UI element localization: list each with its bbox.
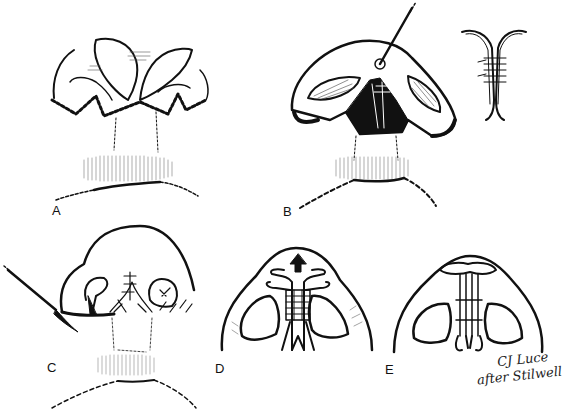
panel-label-a: A <box>52 203 61 218</box>
panel-label-b: B <box>283 204 292 219</box>
panel-label-c: C <box>47 360 56 375</box>
panel-e-drawing <box>394 256 542 352</box>
panel-label-e: E <box>385 362 394 377</box>
panel-b-drawing <box>292 2 526 208</box>
panel-b-inset <box>462 31 526 120</box>
panel-a-drawing <box>52 39 208 200</box>
panel-c-drawing <box>4 226 196 408</box>
panel-d-drawing <box>222 248 372 350</box>
panel-label-d: D <box>215 361 224 376</box>
